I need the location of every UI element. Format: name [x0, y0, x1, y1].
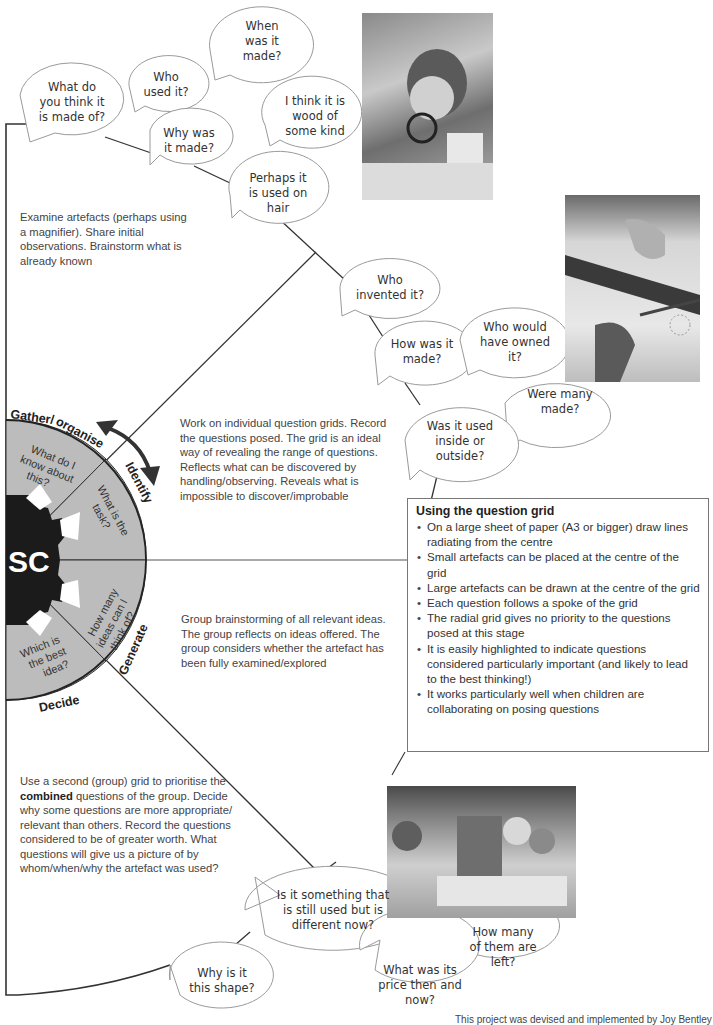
- infobox-item: It works particularly well when children…: [427, 686, 700, 716]
- bubble-when-made: When was it made?: [210, 5, 314, 77]
- note-examine: Examine artefacts (perhaps using a magni…: [20, 210, 195, 268]
- bubble-inside-outside: Was it used inside or outside?: [403, 404, 517, 478]
- bubble-who-used: Who used it?: [125, 60, 207, 110]
- bubble-shape-question: Why is it this shape?: [170, 948, 274, 1014]
- note-text: Use a second (group) grid to prioritise …: [20, 775, 226, 787]
- infobox-item: Each question follows a spoke of the gri…: [427, 595, 700, 610]
- bubble-wood: I think it is wood of some kind: [265, 80, 365, 152]
- infobox-title: Using the question grid: [416, 504, 700, 518]
- infobox-item: The radial grid gives no priority to the…: [427, 610, 700, 640]
- infobox-item: Large artefacts can be drawn at the cent…: [427, 580, 700, 595]
- infobox-item: Small artefacts can be placed at the cen…: [427, 549, 700, 579]
- bubble-made-of: What do you think it is made of?: [20, 70, 124, 134]
- connector-line: [194, 166, 230, 183]
- hands-drawing-grid-photo: [565, 195, 700, 382]
- infobox-item: It is easily highlighted to indicate que…: [427, 641, 700, 687]
- bubble-many-made: Were many made?: [505, 370, 615, 434]
- photo-content: [565, 195, 700, 382]
- connector-line: [405, 383, 420, 405]
- question-grid-infobox: Using the question grid On a large sheet…: [407, 498, 709, 752]
- bubble-owned: Who would have owned it?: [460, 307, 570, 377]
- note-text: questions of the group. Decide why some …: [20, 790, 232, 875]
- connector-line: [392, 752, 405, 775]
- photo-content: [362, 13, 493, 200]
- note-group-brainstorm: Group brainstorming of all relevant idea…: [181, 612, 401, 670]
- credit-footer: This project was devised and implemented…: [455, 1014, 712, 1025]
- bubble-how-made: How was it made?: [372, 320, 472, 384]
- bubble-still-used: Is it something that is still used but i…: [245, 868, 421, 952]
- infobox-list: On a large sheet of paper (A3 or bigger)…: [416, 519, 700, 717]
- infobox-item: On a large sheet of paper (A3 or bigger)…: [427, 519, 700, 549]
- hub-label: SC: [8, 545, 50, 578]
- bubble-invented: Who invented it?: [340, 258, 440, 318]
- note-second-grid: Use a second (group) grid to prioritise …: [20, 774, 235, 876]
- bubble-hair: Perhaps it is used on hair: [228, 158, 328, 228]
- child-with-magnifier-photo: [362, 13, 493, 200]
- bubble-why-made: Why was it made?: [147, 115, 231, 167]
- bubble-price: What was its price then and now?: [360, 948, 480, 1022]
- note-bold-text: combined: [20, 790, 73, 802]
- note-individual-grids: Work on individual question grids. Recor…: [180, 416, 395, 503]
